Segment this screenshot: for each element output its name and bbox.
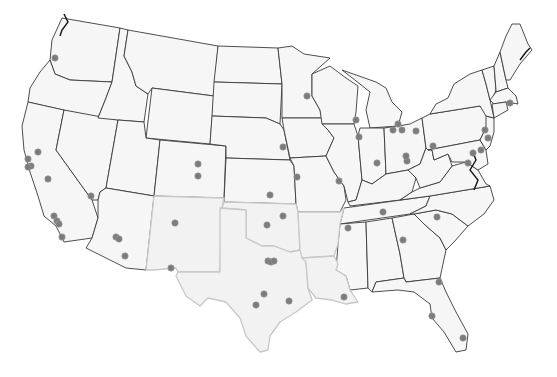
city-dot — [35, 149, 41, 155]
city-dot — [25, 164, 31, 170]
city-dot — [261, 291, 267, 297]
city-dot — [195, 173, 201, 179]
city-dot — [267, 192, 273, 198]
city-dot — [413, 128, 419, 134]
city-dot — [271, 258, 277, 264]
city-dot — [465, 160, 471, 166]
city-dot — [45, 176, 51, 182]
city-dot — [264, 222, 270, 228]
city-dot — [430, 143, 436, 149]
state-kansas — [224, 158, 296, 204]
city-dot — [88, 193, 94, 199]
city-dot — [485, 135, 491, 141]
city-dot — [374, 160, 380, 166]
city-dot — [253, 302, 259, 308]
city-dot — [395, 121, 401, 127]
city-dot — [400, 237, 406, 243]
city-dot — [25, 156, 31, 162]
city-dot — [434, 214, 440, 220]
city-dot — [403, 153, 409, 159]
city-dot — [470, 150, 476, 156]
state-wyoming — [146, 88, 214, 144]
city-dot — [52, 55, 58, 61]
city-dot — [429, 313, 435, 319]
city-dot — [195, 161, 201, 167]
state-montana — [124, 30, 218, 96]
state-washington — [50, 18, 120, 82]
city-dot — [168, 265, 174, 271]
us-map — [0, 0, 557, 377]
city-dot — [280, 213, 286, 219]
city-dot — [390, 127, 396, 133]
city-dot — [436, 279, 442, 285]
city-dot — [336, 178, 342, 184]
state-new-mexico — [146, 196, 224, 272]
city-dot — [294, 174, 300, 180]
city-dot — [59, 234, 65, 240]
city-dot — [507, 100, 513, 106]
city-dot — [345, 225, 351, 231]
city-dot — [304, 93, 310, 99]
city-dot — [56, 221, 62, 227]
city-dot — [341, 294, 347, 300]
state-florida — [372, 278, 468, 352]
highlighted-region-layer — [146, 196, 358, 352]
map-canvas — [0, 0, 557, 377]
city-dot — [399, 127, 405, 133]
city-dot — [280, 144, 286, 150]
state-maine — [500, 24, 532, 80]
state-north-dakota — [214, 46, 282, 84]
state-colorado — [154, 140, 226, 198]
city-dot — [116, 236, 122, 242]
state-connecticut — [492, 102, 508, 118]
city-dot — [356, 134, 362, 140]
city-dot — [482, 127, 488, 133]
city-dot — [380, 209, 386, 215]
city-dot — [460, 335, 466, 341]
city-dot — [353, 117, 359, 123]
city-dot — [172, 220, 178, 226]
city-dot — [286, 298, 292, 304]
city-dot — [478, 147, 484, 153]
city-dot — [122, 253, 128, 259]
